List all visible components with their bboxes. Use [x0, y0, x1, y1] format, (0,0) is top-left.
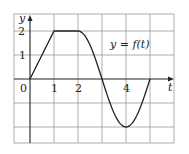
chart: y t 2 1 0 1 2 4 y = f(t) — [0, 0, 189, 154]
x-tick-2: 2 — [75, 82, 82, 95]
x-tick-0: 0 — [20, 82, 27, 95]
y-tick-1: 1 — [19, 49, 26, 62]
t-axis-label: t — [168, 81, 173, 94]
x-tick-4: 4 — [123, 82, 130, 95]
function-annotation: y = f(t) — [109, 38, 150, 51]
y-tick-2: 2 — [18, 25, 25, 38]
y-axis-arrow-icon — [28, 15, 33, 21]
y-axis-label: y — [18, 12, 26, 25]
x-tick-1: 1 — [51, 82, 58, 95]
